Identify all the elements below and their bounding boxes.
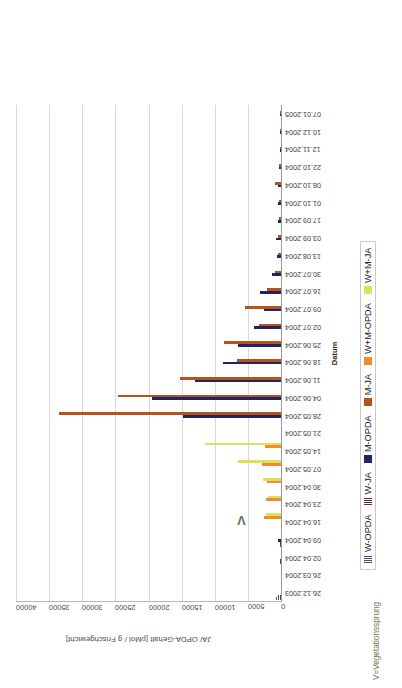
bar [279,167,281,170]
y-axis-tick-label: 35000 [45,601,54,628]
bar [254,326,281,329]
bar [278,253,281,256]
legend-label: W+M-OPDA [363,303,373,354]
bar-group [16,459,281,477]
bar [277,255,281,258]
legend-label: M-OPDA [363,415,373,452]
y-axis-tick-label: 5000 [243,601,252,623]
y-axis-tick-label: 40000 [12,601,21,628]
bar [183,415,281,418]
legend-item: W+M-JA [363,248,373,294]
legend-item: M-OPDA [363,415,373,463]
bar-group [16,442,281,460]
legend-swatch [364,555,372,563]
bar [152,397,281,400]
bar [264,309,281,312]
bar-group [16,477,281,495]
bar-group [16,229,281,247]
bar [224,341,281,344]
bar [279,217,281,220]
vegetation-jump-note: V=Vegetationssprung [372,602,381,680]
legend-swatch [364,286,372,294]
bar-group [16,371,281,389]
y-axis-tick-label: 30000 [78,601,87,628]
legend-label: W-OPDA [363,514,373,552]
bar [280,149,281,152]
bar [268,496,281,499]
bar [238,460,281,463]
bar-group [16,406,281,424]
chart-figure: JA/ OPDA-Gehalt [pMol / g Frischgewicht]… [0,0,402,688]
plot-area: JA/ OPDA-Gehalt [pMol / g Frischgewicht]… [16,105,282,602]
bar-group [16,300,281,318]
bar [205,443,281,446]
bar [280,147,281,150]
vegetation-jump-marker: V [237,514,246,527]
x-axis-title: Datum [330,105,339,602]
bar [280,559,281,562]
bar [278,595,281,598]
bar [118,395,281,398]
bar-group [16,318,281,336]
bar [259,324,281,327]
bar [238,344,281,347]
legend-label: M-JA [363,374,373,395]
bar [279,200,281,203]
bar-group [16,530,281,548]
bar [267,481,281,484]
bar-group [16,123,281,141]
bar-group [16,424,281,442]
bar [275,271,281,274]
bar-group [16,548,281,566]
bar [280,131,281,134]
bar [279,562,281,565]
bar [263,478,281,481]
y-axis-tick-label: 10000 [210,601,219,628]
bar [272,273,281,276]
legend-swatch [364,455,372,463]
bar [59,412,281,415]
legend-item: W+M-OPDA [363,303,373,365]
bar [223,362,281,365]
bar [278,185,281,188]
legend-item: W-OPDA [363,514,373,563]
y-axis-title: JA/ OPDA-Gehalt [pMol / g Frischgewicht] [0,635,289,644]
bar [280,111,281,114]
bar-group [16,583,281,601]
bar-group [16,105,281,123]
bar [264,516,281,519]
y-axis-tick-label: 15000 [177,601,186,628]
chart-legend: W-OPDAW-JAM-OPDAM-JAW+M-OPDAW+M-JA [360,241,376,570]
bar [260,291,281,294]
legend-label: W-JA [363,472,373,494]
bar-group [16,176,281,194]
bar [266,513,281,516]
bar [278,539,281,542]
legend-swatch [364,357,372,365]
legend-swatch [364,398,372,406]
bar [278,202,281,205]
bar-group [16,388,281,406]
bar [245,306,281,309]
bar-group [16,193,281,211]
bar [278,235,281,238]
bar [279,544,281,547]
bar [279,164,281,167]
legend-item: M-JA [363,374,373,406]
bar [278,220,281,223]
y-axis-tick-label: 0 [277,601,286,611]
bar [195,380,281,383]
bar [265,445,281,448]
bar-group [16,335,281,353]
bar [276,597,281,600]
bar-group [16,247,281,265]
legend-swatch [364,497,372,505]
rotated-page-wrapper: JA/ OPDA-Gehalt [pMol / g Frischgewicht]… [0,0,402,688]
legend-item: W-JA [363,472,373,505]
bar-group [16,495,281,513]
bar-group [16,353,281,371]
y-axis-tick-label: 20000 [144,601,153,628]
bar [280,129,281,132]
bar [266,498,281,501]
bar-group [16,264,281,282]
